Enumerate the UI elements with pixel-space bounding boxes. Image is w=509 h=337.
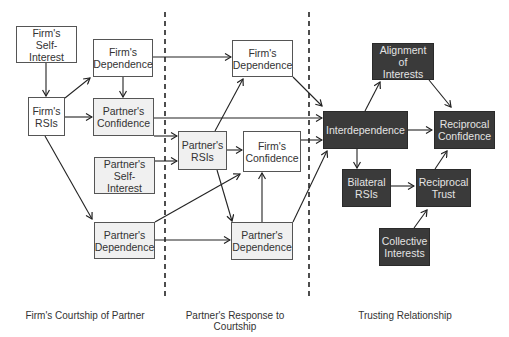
node-bilateral-rsis: Bilateral RSIs [342, 169, 391, 207]
phase-label-response: Partner's Response to Courtship [165, 310, 305, 332]
arrow-reciprocal-trust-to-reciprocal-confidence [435, 151, 447, 169]
node-partner-confidence: Partner's Confidence [93, 98, 154, 136]
arrow-interdependence-to-alignment [365, 82, 380, 111]
arrow-firm-rsis-to-partner-dependence [45, 136, 92, 219]
trust-building-diagram: Firm's Self-Interest Firm's RSIs Firm's … [0, 0, 509, 337]
arrow-partner-rsis-to-firm-dependence-2 [215, 79, 243, 131]
arrow-firm-rsis-to-firm-dependence [65, 78, 90, 98]
node-partner-dependence-response: Partner's Dependence [231, 222, 293, 260]
node-firm-dependence-response: Firm's Dependence [232, 40, 293, 77]
arrow-firm-dependence-2-to-interdependence [293, 77, 322, 106]
node-reciprocal-confidence: Reciprocal Confidence [434, 111, 495, 149]
node-firm-dependence: Firm's Dependence [93, 39, 153, 77]
node-partner-rsis: Partner's RSIs [178, 131, 227, 170]
phase-label-courtship: Firm's Courtship of Partner [20, 310, 150, 321]
node-reciprocal-trust: Reciprocal Trust [416, 169, 471, 207]
arrow-collective-interests-to-reciprocal-trust [414, 210, 427, 228]
arrow-alignment-to-reciprocal-confidence [429, 80, 451, 107]
node-interdependence: Interdependence [323, 111, 408, 149]
node-firm-self-interest: Firm's Self-Interest [16, 26, 77, 63]
node-collective-interests: Collective Interests [379, 228, 430, 266]
node-partner-dependence: Partner's Dependence [94, 222, 155, 259]
node-firm-confidence: Firm's Confidence [243, 131, 301, 172]
node-alignment-of-interests: Alignment of Interests [372, 43, 434, 80]
phase-label-trusting-relationship: Trusting Relationship [355, 310, 455, 321]
node-firm-rsis: Firm's RSIs [28, 97, 65, 136]
node-partner-self-interest: Partner's Self-Interest [94, 157, 155, 194]
arrow-partner-rsis-to-partner-dependence-2 [217, 170, 232, 221]
arrow-partner-dependence-to-firm-confidence [155, 174, 240, 222]
